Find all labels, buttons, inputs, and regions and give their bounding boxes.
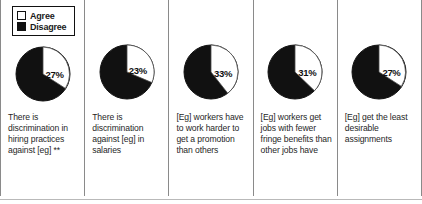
panel-caption-2: There is discrimination against [eg] in … [92, 112, 163, 156]
disagree-swatch-icon [17, 22, 26, 31]
bottom-divider [0, 199, 422, 200]
legend-item-agree: Agree [17, 10, 70, 21]
legend-label-disagree: Disagree [30, 22, 66, 32]
panel-caption-1: There is discrimination in hiring practi… [8, 112, 79, 156]
legend-item-disagree: Disagree [17, 21, 70, 32]
pie-value-label-3: 33% [214, 68, 232, 79]
pie-chart-4: 31% [267, 44, 323, 100]
legend: Agree Disagree [12, 6, 75, 36]
panel-column-4: 31% [Eg] workers get jobs with fewer fri… [253, 0, 337, 196]
panel-column-3: 33% [Eg] workers have to work harder to … [168, 0, 252, 196]
panel-column-2: 23% There is discrimination against [eg]… [84, 0, 168, 196]
panel-column-5: 27% [Eg] get the least desirable assignm… [337, 0, 422, 196]
panel-caption-4: [Eg] workers get jobs with fewer fringe … [261, 112, 332, 156]
pie-chart-panel-figure: Agree Disagree 27% There is discriminati… [0, 0, 422, 204]
pie-chart-3: 33% [183, 44, 239, 100]
pie-wrap-5: 27% [338, 44, 421, 104]
pie-value-label-4: 31% [298, 67, 316, 78]
pie-wrap-3: 33% [169, 44, 252, 104]
pie-chart-2: 23% [99, 44, 155, 100]
panel-caption-3: [Eg] workers have to work harder to get … [176, 112, 247, 156]
pie-value-label-5: 27% [382, 67, 400, 78]
pie-wrap-2: 23% [85, 44, 168, 104]
legend-label-agree: Agree [30, 11, 55, 21]
pie-value-label-1: 27% [46, 69, 64, 80]
pie-value-label-2: 23% [129, 65, 147, 76]
pie-wrap-1: 27% [1, 46, 84, 106]
pie-chart-1: 27% [15, 46, 71, 102]
pie-wrap-4: 31% [254, 44, 337, 104]
agree-swatch-icon [17, 11, 26, 20]
panel-columns: Agree Disagree 27% There is discriminati… [0, 0, 422, 196]
panel-caption-5: [Eg] get the least desirable assignments [345, 112, 416, 145]
panel-column-1: Agree Disagree 27% There is discriminati… [0, 0, 84, 196]
pie-chart-5: 27% [351, 44, 407, 100]
